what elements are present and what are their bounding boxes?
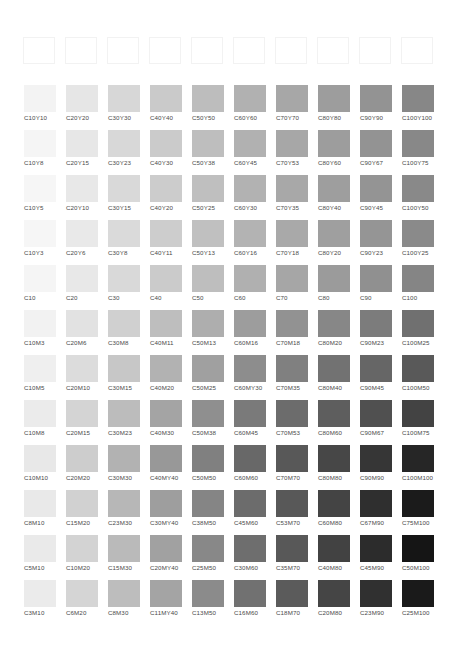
color-swatch (150, 490, 182, 517)
color-swatch-cell: C15M20 (66, 490, 100, 530)
color-swatch (318, 85, 350, 112)
swatch-label: C60 (234, 294, 246, 301)
color-swatch-cell: C45M60 (234, 490, 268, 530)
color-swatch (24, 400, 56, 427)
swatch-label: C50M13 (192, 339, 216, 346)
color-swatch (192, 265, 224, 292)
color-swatch-cell: C40Y20 (150, 175, 184, 215)
swatch-label: C20M10 (66, 384, 90, 391)
color-swatch (66, 310, 98, 337)
color-swatch-cell: C90M45 (360, 355, 394, 395)
color-swatch-cell: C70Y53 (276, 130, 310, 170)
color-swatch-cell: C67M90 (360, 490, 394, 530)
color-swatch-cell: C20M10 (66, 355, 100, 395)
color-swatch (276, 355, 308, 382)
color-swatch (150, 355, 182, 382)
color-swatch (108, 580, 140, 607)
swatch-label: C40M11 (150, 339, 174, 346)
swatch-label: C5M10 (24, 564, 44, 571)
swatch-label: C100 (402, 294, 417, 301)
color-swatch (24, 265, 56, 292)
color-swatch (318, 400, 350, 427)
color-swatch (108, 85, 140, 112)
color-swatch-cell: C20Y6 (66, 220, 100, 260)
color-swatch-cell: C50 (192, 265, 226, 305)
swatch-label: C40Y40 (150, 114, 173, 121)
swatch-label: C20M20 (66, 474, 90, 481)
color-swatch (192, 490, 224, 517)
swatch-label: C30Y8 (108, 249, 127, 256)
swatch-label: C80Y80 (318, 114, 341, 121)
color-swatch-cell: C90M67 (360, 400, 394, 440)
color-swatch-cell: C25M100 (402, 580, 436, 620)
color-swatch-cell: C100Y75 (402, 130, 436, 170)
color-swatch-cell: C10M20 (66, 535, 100, 575)
swatch-label: C70M53 (276, 429, 300, 436)
swatch-label: C100Y25 (402, 249, 429, 256)
swatch-label: C80M20 (318, 339, 342, 346)
color-swatch (276, 220, 308, 247)
color-swatch (150, 220, 182, 247)
color-swatch (360, 400, 392, 427)
color-swatch (24, 175, 56, 202)
swatch-label: C70M70 (276, 474, 300, 481)
swatch-label: C30MY40 (150, 519, 178, 526)
color-swatch (150, 445, 182, 472)
color-swatch (402, 400, 434, 427)
swatch-label: C40Y11 (150, 249, 173, 256)
color-swatch-cell: C60 (234, 265, 268, 305)
color-swatch-cell: C10 (24, 265, 58, 305)
color-swatch-cell: C90Y90 (360, 85, 394, 125)
swatch-label: C20M6 (66, 339, 86, 346)
color-swatch (108, 355, 140, 382)
color-swatch (234, 130, 266, 157)
color-swatch (234, 580, 266, 607)
swatch-label: C45M90 (360, 564, 384, 571)
swatch-label: C53M70 (276, 519, 300, 526)
color-swatch (24, 310, 56, 337)
color-swatch (24, 130, 56, 157)
swatch-label: C10M20 (66, 564, 90, 571)
swatch-label: C10M5 (24, 384, 44, 391)
swatch-label: C15M30 (108, 564, 132, 571)
swatch-label: C100M50 (402, 384, 430, 391)
swatch-label: C15M20 (66, 519, 90, 526)
color-swatch-cell: C80M20 (318, 310, 352, 350)
color-swatch-cell: C30 (108, 265, 142, 305)
swatch-label: C100Y75 (402, 159, 429, 166)
color-swatch-cell: C10M10 (24, 445, 58, 485)
color-swatch (234, 400, 266, 427)
color-swatch-cell: C8M30 (108, 580, 142, 620)
color-swatch (24, 85, 56, 112)
color-swatch-cell: C100M75 (402, 400, 436, 440)
swatch-label: C60Y45 (234, 159, 257, 166)
color-swatch (192, 400, 224, 427)
color-swatch (192, 310, 224, 337)
color-swatch (360, 85, 392, 112)
color-swatch-cell: C53M70 (276, 490, 310, 530)
color-swatch (234, 355, 266, 382)
color-swatch-cell: C90Y23 (360, 220, 394, 260)
swatch-label: C40MY40 (150, 474, 178, 481)
color-swatch-cell: C60Y45 (234, 130, 268, 170)
color-swatch (192, 220, 224, 247)
swatch-label: C70M18 (276, 339, 300, 346)
color-swatch (108, 490, 140, 517)
color-swatch (234, 220, 266, 247)
color-swatch (360, 310, 392, 337)
color-swatch-cell: C16M60 (234, 580, 268, 620)
swatch-label: C25M100 (402, 609, 430, 616)
color-swatch (402, 265, 434, 292)
color-swatch-cell: C60M80 (318, 490, 352, 530)
swatch-label: C10Y3 (24, 249, 43, 256)
color-swatch-cell: C50M100 (402, 535, 436, 575)
color-swatch (276, 490, 308, 517)
color-swatch (24, 220, 56, 247)
color-swatch (318, 580, 350, 607)
swatch-label: C70Y53 (276, 159, 299, 166)
swatch-label: C40M30 (150, 429, 174, 436)
swatch-label: C60M60 (234, 474, 258, 481)
swatch-label: C100M25 (402, 339, 430, 346)
color-swatch-cell: C30M30 (108, 445, 142, 485)
color-swatch (66, 580, 98, 607)
